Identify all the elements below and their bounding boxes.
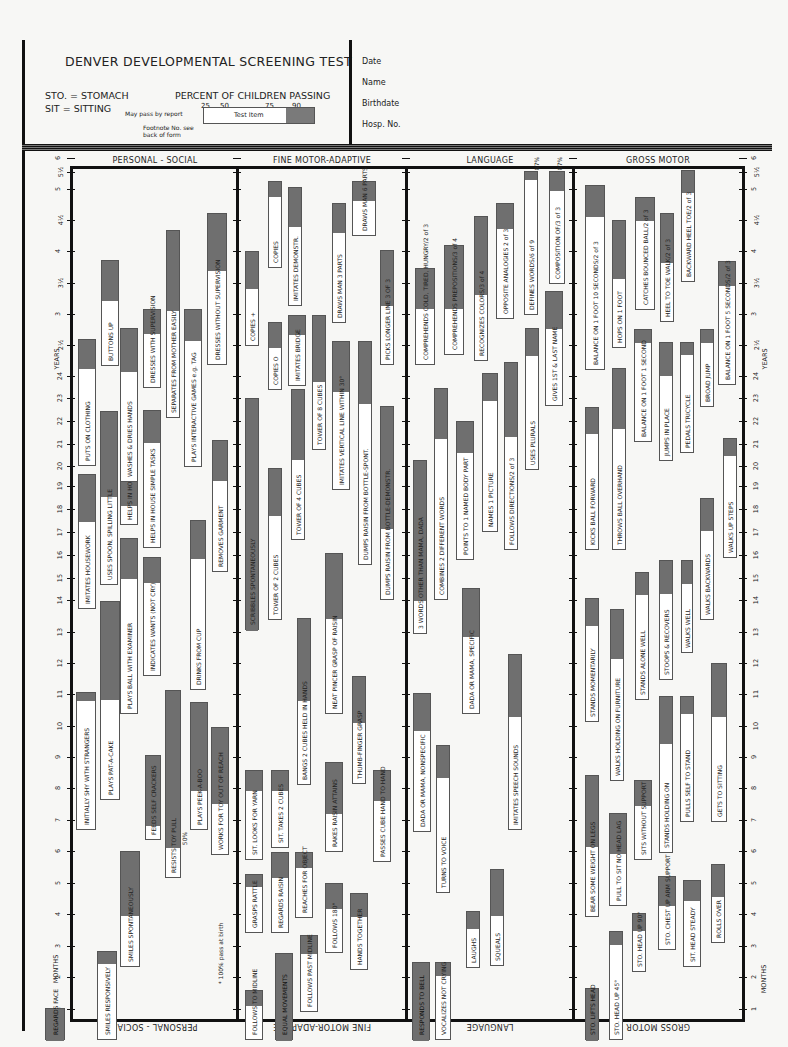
test-item-label: DRESSES WITH SUPERVISION bbox=[149, 295, 156, 383]
field-name[interactable]: Name bbox=[362, 78, 386, 87]
axis-label-left: 3 bbox=[54, 312, 62, 316]
percentile-75-90-segment bbox=[681, 343, 693, 355]
percentile-75-90-segment bbox=[77, 693, 95, 701]
axis-label-right: 4 bbox=[750, 249, 758, 253]
axis-tick bbox=[739, 421, 747, 422]
test-item-bar: JUMPS IN PLACE bbox=[659, 342, 673, 461]
axis-tick bbox=[402, 977, 410, 978]
percentile-75-90-segment bbox=[102, 261, 118, 301]
axis-label-left: 23 bbox=[56, 394, 64, 402]
percentile-75-90-segment bbox=[701, 330, 713, 343]
divider-left bbox=[70, 166, 73, 1022]
percent-title: PERCENT OF CHILDREN PASSING bbox=[175, 90, 330, 101]
axis-tick bbox=[233, 555, 241, 556]
axis-tick bbox=[739, 345, 747, 346]
test-item-bar: TURNS TO VOICE bbox=[436, 745, 450, 893]
axis-tick bbox=[67, 977, 75, 978]
axis-tick bbox=[67, 509, 75, 510]
test-item-label: IMITATES VERTICAL LINE WITHIN 30° bbox=[338, 376, 345, 485]
axis-tick bbox=[402, 251, 410, 252]
column-title-language: LANGUAGE bbox=[405, 156, 575, 165]
axis-tick bbox=[739, 977, 747, 978]
test-item-bar: INDICATES WANTS (NOT CRY) bbox=[143, 557, 161, 676]
axis-label-right: 17 bbox=[752, 528, 760, 536]
test-item-label: JUMPS IN PLACE bbox=[663, 408, 670, 456]
test-item-bar: IMITATES HOUSEWORK bbox=[78, 474, 96, 609]
axis-label-left: 6 bbox=[54, 849, 62, 853]
percentile-75-90-segment bbox=[326, 554, 342, 619]
axis-tick bbox=[233, 600, 241, 601]
test-item-bar: WASHES & DRIES HANDS bbox=[120, 328, 138, 482]
axis-tick bbox=[739, 914, 747, 915]
test-item-label: NAMES 1 PICTURE bbox=[487, 472, 494, 527]
field-date[interactable]: Date bbox=[362, 57, 381, 66]
abbr-stomach: STO. = STOMACH bbox=[45, 90, 129, 101]
field-birthdate[interactable]: Birthdate bbox=[362, 99, 399, 108]
field-hosp-no[interactable]: Hosp. No. bbox=[362, 120, 401, 129]
axis-tick bbox=[402, 466, 410, 467]
axis-label-left: 16 bbox=[56, 551, 64, 559]
test-item-label: CATCHES BOUNCED BALL/2 of 3 bbox=[642, 209, 649, 305]
axis-label-right: 10 bbox=[752, 722, 760, 730]
test-item-label: PASSES CUBE HAND TO HAND bbox=[379, 766, 386, 857]
test-item-label: COPIES bbox=[272, 241, 279, 263]
test-item-label: STO. CHEST UP ARM SUPPORT bbox=[664, 855, 671, 945]
axis-tick bbox=[67, 532, 75, 533]
axis-tick bbox=[739, 283, 747, 284]
percentile-75-90-segment bbox=[457, 422, 473, 453]
axis-tick bbox=[569, 345, 577, 346]
test-item-label: TOWER OF 8 CUBES bbox=[316, 385, 323, 445]
test-item-bar: SIT. HEAD STEADY bbox=[683, 880, 701, 967]
percentile-75-90-segment bbox=[526, 329, 538, 356]
test-item-bar: COMPREHENDS COLD, TIRED, HUNGRY/2 of 3 bbox=[415, 268, 435, 365]
test-item-label: WORKS FOR TOY OUT OF REACH bbox=[217, 752, 224, 850]
axis-label-left: 4½ bbox=[57, 215, 65, 225]
axis-label-left: 3 bbox=[54, 944, 62, 948]
axis-tick bbox=[739, 314, 747, 315]
axis-tick bbox=[67, 1009, 75, 1010]
axis-tick bbox=[739, 578, 747, 579]
axis-tick bbox=[233, 444, 241, 445]
axis-label-left: 5 bbox=[54, 187, 62, 191]
axis-tick bbox=[739, 251, 747, 252]
axis-tick bbox=[233, 314, 241, 315]
axis-label-left: 5 bbox=[54, 881, 62, 885]
test-item-bar: IMITATES VERTICAL LINE WITHIN 30° bbox=[332, 341, 350, 490]
axis-tick bbox=[402, 883, 410, 884]
axis-tick bbox=[402, 532, 410, 533]
test-item-label: IMITATES BRIDGE bbox=[294, 329, 301, 381]
axis-label-left: 3½ bbox=[57, 278, 65, 288]
test-item-bar: BALANCE ON 1 FOOT 10 SECONDS/2 of 3 bbox=[585, 185, 605, 370]
test-item-bar: STANDS MOMENTARILY bbox=[585, 598, 599, 722]
axis-tick bbox=[233, 851, 241, 852]
test-item-bar: BALANCE ON 1 FOOT 1 SECOND bbox=[634, 329, 652, 442]
test-item-bar: THROWS BALL OVERHAND bbox=[612, 368, 626, 550]
test-item-bar: PUTS ON CLOTHING bbox=[78, 339, 96, 466]
percentile-75-90-segment bbox=[101, 602, 119, 700]
axis-tick bbox=[569, 820, 577, 821]
axis-tick bbox=[402, 946, 410, 947]
test-item-bar: OPPOSITE ANALOGIES 2 of 3 bbox=[496, 203, 514, 319]
axis-tick bbox=[233, 466, 241, 467]
percentile-75-90-segment bbox=[437, 746, 449, 778]
percentile-75-90-segment bbox=[509, 655, 521, 717]
test-item-bar: REGARDS RAISIN bbox=[271, 852, 289, 933]
test-item-bar: HEEL TO TOE WALK/2 of 3 bbox=[660, 213, 674, 322]
axis-tick bbox=[402, 663, 410, 664]
eighty-seven-note-b: 87% bbox=[556, 157, 563, 170]
axis-tick bbox=[569, 532, 577, 533]
percentile-75-90-segment bbox=[144, 411, 160, 443]
percentile-75-90-segment bbox=[269, 323, 281, 348]
test-item-bar: DADA OR MAMA, NONSPECIFIC bbox=[413, 693, 431, 832]
axis-tick bbox=[402, 345, 410, 346]
axis-tick bbox=[67, 820, 75, 821]
axis-tick bbox=[739, 376, 747, 377]
axis-tick bbox=[233, 788, 241, 789]
axis-tick bbox=[739, 398, 747, 399]
axis-tick bbox=[402, 172, 410, 173]
test-item-label: STO. LIFTS HEAD bbox=[589, 984, 596, 1035]
axis-label-left: 10 bbox=[56, 722, 64, 730]
percentile-75-90-segment bbox=[611, 610, 623, 659]
axis-tick bbox=[739, 757, 747, 758]
axis-tick bbox=[569, 283, 577, 284]
